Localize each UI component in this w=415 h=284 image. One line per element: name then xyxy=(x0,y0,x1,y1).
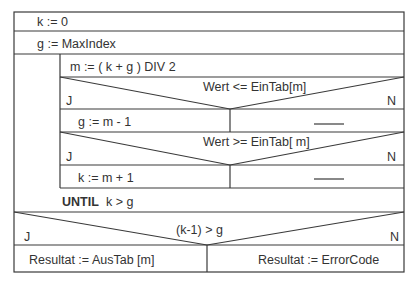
repeat-until-loop: m := ( k + g ) DIV 2 Wert <= EinTab[m] J… xyxy=(14,54,404,212)
final-decision: (k-1) > g J N Resultat := AusTab [m] Res… xyxy=(14,212,404,272)
structogram: k := 0 g := MaxIndex m := ( k + g ) DIV … xyxy=(0,0,415,284)
decision-2-no-label: N xyxy=(387,150,396,164)
decision-2: Wert >= EinTab[ m] J N k := m + 1 xyxy=(60,132,404,188)
decision-diagonal xyxy=(207,212,404,245)
until-keyword: UNTIL xyxy=(62,195,99,209)
final-decision-condition: (k-1) > g xyxy=(176,223,223,237)
final-decision-no-label: N xyxy=(390,230,399,244)
decision-1: Wert <= EinTab[m] J N g := m - 1 xyxy=(60,77,404,132)
decision-2-condition: Wert >= EinTab[ m] xyxy=(203,135,310,149)
decision-1-no-label: N xyxy=(387,94,396,108)
decision-1-yes-label: J xyxy=(66,94,72,108)
decision-1-condition: Wert <= EinTab[m] xyxy=(203,80,306,94)
decision-2-yes-action: k := m + 1 xyxy=(78,171,134,185)
statement-init-g: g := MaxIndex xyxy=(37,37,117,51)
statement-compute-m: m := ( k + g ) DIV 2 xyxy=(70,60,176,74)
statement-init-k: k := 0 xyxy=(37,15,68,29)
decision-1-yes-action: g := m - 1 xyxy=(78,115,131,129)
final-decision-yes-action: Resultat := AusTab [m] xyxy=(29,253,154,267)
until-condition: k > g xyxy=(106,195,133,209)
decision-2-yes-label: J xyxy=(66,150,72,164)
final-decision-no-action: Resultat := ErrorCode xyxy=(258,253,379,267)
final-decision-yes-label: J xyxy=(24,230,30,244)
